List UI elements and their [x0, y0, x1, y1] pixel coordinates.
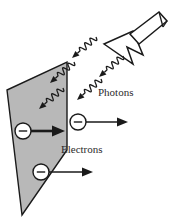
photoelectric-effect-figure: Photons Electrons — [0, 0, 172, 222]
electron-arrowhead-icon — [117, 117, 128, 126]
photon-ray-icon — [72, 37, 97, 58]
photon-ray-icon — [99, 56, 124, 77]
diagram-canvas: Photons Electrons — [0, 0, 172, 222]
photon-shaft — [104, 70, 107, 72]
lamp-handle-icon — [130, 12, 167, 44]
electron-particle — [33, 164, 93, 180]
electron-particle — [70, 114, 128, 130]
photons-label: Photons — [98, 86, 133, 98]
metal-plate — [7, 62, 67, 215]
photon-shaft — [77, 51, 80, 53]
electron-arrowhead-icon — [82, 167, 93, 176]
electrons-label: Electrons — [61, 143, 103, 155]
light-source — [104, 12, 167, 64]
photon-wave — [106, 56, 124, 70]
photon-wave — [79, 37, 97, 51]
photon-shaft — [82, 93, 85, 95]
